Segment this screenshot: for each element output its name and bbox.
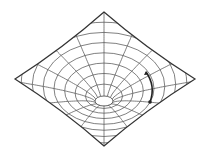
gravity-well-diagram [0,0,209,160]
curvature-grid [0,0,209,160]
funnel-grid-figure [0,0,209,160]
